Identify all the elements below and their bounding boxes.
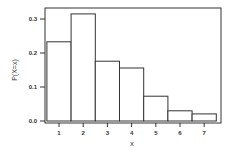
x-tick-label: 7 (203, 130, 207, 136)
y-tick-label: 0.0 (29, 118, 38, 124)
x-tick-label: 2 (82, 130, 86, 136)
bar-3 (95, 61, 119, 121)
bar-4 (120, 68, 144, 121)
x-tick-label: 3 (106, 130, 110, 136)
x-tick-label: 1 (57, 130, 61, 136)
x-axis-label: x (130, 140, 134, 147)
bar-6 (168, 111, 192, 121)
bar-2 (71, 14, 95, 121)
x-tick-label: 4 (130, 130, 134, 136)
y-tick-label: 0.2 (29, 50, 38, 56)
y-tick-label: 0.3 (29, 16, 38, 22)
y-tick-label: 0.1 (29, 84, 38, 90)
bar-1 (47, 42, 71, 121)
y-axis: 0.00.10.20.3 (29, 16, 45, 124)
x-axis: 1234567 (57, 123, 206, 136)
x-tick-label: 6 (178, 130, 182, 136)
bars-group (47, 14, 216, 121)
bar-7 (192, 114, 216, 121)
y-axis-label: P(X=x) (11, 59, 19, 81)
bar-5 (144, 96, 168, 121)
probability-histogram: 0.00.10.20.3 1234567 x P(X=x) (0, 0, 234, 154)
x-tick-label: 5 (154, 130, 158, 136)
